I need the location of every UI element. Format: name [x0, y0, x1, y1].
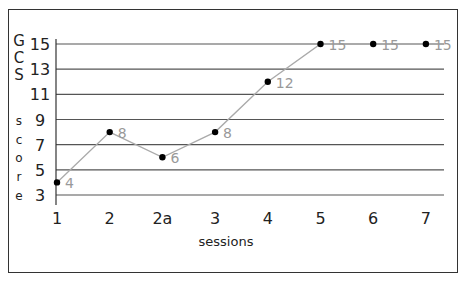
y-label-letter: e [15, 189, 22, 203]
x-axis-title: sessions [199, 234, 254, 249]
y-label-letter: r [17, 170, 22, 184]
y-tick-label: 3 [35, 186, 45, 205]
data-label: 8 [118, 125, 127, 141]
data-point [423, 41, 429, 47]
data-point [212, 129, 218, 135]
data-point [159, 154, 165, 160]
y-label-letter: o [15, 151, 22, 165]
x-tick-label: 2a [152, 209, 172, 228]
y-axis-ticks: 1513119753 [30, 35, 50, 205]
x-tick-label: 4 [263, 209, 273, 228]
data-point [370, 41, 376, 47]
data-label: 8 [223, 125, 232, 141]
y-label-letter: S [14, 66, 24, 84]
y-tick-label: 7 [35, 136, 45, 155]
y-tick-label: 15 [30, 35, 50, 54]
x-tick-label: 3 [210, 209, 220, 228]
y-label-letter: C [14, 49, 24, 67]
data-point [265, 79, 271, 85]
gcs-line-chart: 1513119753 GCSscore 122a34567 sessions 4… [0, 0, 466, 286]
y-tick-label: 5 [35, 161, 45, 180]
y-tick-label: 9 [35, 111, 45, 130]
series-line [57, 44, 426, 182]
y-label-letter: s [16, 114, 22, 128]
data-label: 15 [434, 37, 452, 53]
x-tick-label: 1 [52, 209, 62, 228]
y-tick-label: 11 [30, 85, 50, 104]
y-label-letter: c [16, 133, 23, 147]
data-label: 15 [381, 37, 399, 53]
grid-lines [56, 39, 444, 205]
data-label: 15 [329, 37, 347, 53]
x-tick-label: 5 [315, 209, 325, 228]
data-label: 4 [65, 175, 74, 191]
x-axis-ticks: 122a34567 [52, 209, 431, 228]
x-tick-label: 7 [421, 209, 431, 228]
y-axis-label: GCSscore [13, 32, 25, 203]
data-label: 6 [170, 150, 179, 166]
data-series: 486812151515 [54, 37, 452, 191]
data-point [107, 129, 113, 135]
data-point [54, 179, 60, 185]
data-point [317, 41, 323, 47]
y-label-letter: G [13, 32, 25, 50]
x-tick-label: 2 [105, 209, 115, 228]
data-label: 12 [276, 75, 294, 91]
x-tick-label: 6 [368, 209, 378, 228]
y-tick-label: 13 [30, 60, 50, 79]
